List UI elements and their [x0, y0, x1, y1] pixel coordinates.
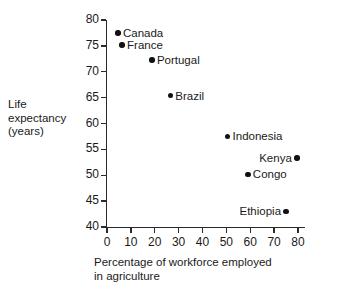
y-tick-mark	[101, 175, 106, 176]
y-tick-mark	[101, 71, 106, 72]
x-axis-title-line-1: Percentage of workforce employed	[94, 255, 344, 269]
scatter-chart: Life expectancy (years) 4045505560657075…	[0, 0, 346, 295]
x-tick-label: 0	[104, 235, 111, 249]
y-tick-mark	[101, 200, 106, 201]
data-point-marker	[149, 57, 154, 62]
y-tick-label: 45	[86, 193, 99, 207]
y-axis-line	[106, 20, 107, 227]
y-tick-label: 60	[86, 116, 99, 130]
data-point-label: Portugal	[157, 53, 200, 66]
data-point-marker	[294, 155, 299, 160]
x-axis-line	[106, 227, 305, 228]
y-tick-mark	[101, 45, 106, 46]
data-point-marker	[225, 134, 230, 139]
y-tick-mark	[101, 19, 106, 20]
plot-area: 404550556065707580 01020304050607080 Can…	[107, 20, 298, 227]
y-axis-title-line-2: expectancy	[8, 112, 86, 126]
x-axis-title: Percentage of workforce employed in agri…	[94, 255, 344, 283]
data-point-label: Indonesia	[233, 130, 283, 143]
data-point-label: Ethiopia	[240, 205, 282, 218]
x-axis-title-line-2: in agriculture	[94, 269, 344, 283]
x-tick-label: 80	[291, 235, 304, 249]
x-tick-mark	[202, 228, 203, 233]
y-tick-label: 40	[86, 219, 99, 233]
y-tick-label: 50	[86, 167, 99, 181]
x-tick-mark	[106, 228, 107, 233]
y-tick-mark	[101, 226, 106, 227]
x-tick-label: 10	[124, 235, 137, 249]
x-tick-mark	[178, 228, 179, 233]
y-axis-title-line-3: (years)	[8, 125, 86, 139]
data-point-marker	[119, 42, 124, 47]
x-tick-mark	[154, 228, 155, 233]
y-tick-label: 80	[86, 12, 99, 26]
y-tick-label: 65	[86, 90, 99, 104]
x-tick-label: 30	[172, 235, 185, 249]
data-point-label: Congo	[253, 168, 287, 181]
data-point-marker	[245, 172, 250, 177]
y-tick-mark	[101, 123, 106, 124]
x-tick-mark	[226, 228, 227, 233]
x-tick-mark	[273, 228, 274, 233]
data-point-label: Brazil	[175, 89, 204, 102]
x-tick-label: 60	[244, 235, 257, 249]
y-tick-label: 55	[86, 141, 99, 155]
data-point-label: France	[127, 38, 163, 51]
data-point-marker	[283, 209, 288, 214]
data-point-marker	[115, 30, 120, 35]
y-axis-title-line-1: Life	[8, 98, 86, 112]
x-tick-label: 50	[220, 235, 233, 249]
data-point-label: Kenya	[259, 152, 292, 165]
y-axis-title: Life expectancy (years)	[8, 98, 86, 139]
x-tick-mark	[297, 228, 298, 233]
x-tick-mark	[250, 228, 251, 233]
y-tick-label: 70	[86, 64, 99, 78]
x-tick-mark	[130, 228, 131, 233]
x-tick-label: 70	[267, 235, 280, 249]
data-point-marker	[168, 93, 173, 98]
x-tick-label: 40	[196, 235, 209, 249]
y-tick-mark	[101, 149, 106, 150]
x-tick-label: 20	[148, 235, 161, 249]
y-tick-mark	[101, 97, 106, 98]
y-tick-label: 75	[86, 38, 99, 52]
